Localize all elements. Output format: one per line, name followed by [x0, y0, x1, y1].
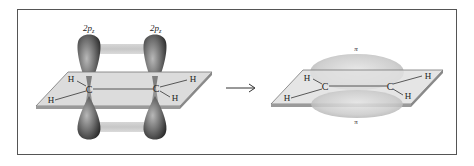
left-panel-p-orbitals: C C H H H H 2pz 2pz — [36, 23, 212, 140]
hydrogen-label: H — [172, 93, 179, 103]
hydrogen-label: H — [405, 91, 412, 101]
right-panel-pi-bond: C C H H H H π π — [271, 45, 443, 126]
pi-label-bottom: π — [354, 118, 358, 126]
hydrogen-label: H — [68, 74, 75, 84]
carbon-label: C — [86, 84, 93, 95]
carbon-label: C — [387, 81, 394, 92]
pi-cloud-lower — [311, 90, 403, 118]
carbon-label: C — [153, 83, 160, 94]
reaction-arrow — [226, 84, 255, 92]
hydrogen-label: H — [48, 95, 55, 105]
pi-label-top: π — [354, 45, 358, 53]
ethylene-pi-bond-diagram: C C H H H H 2pz 2pz C C H H — [0, 0, 474, 166]
hydrogen-label: H — [425, 71, 432, 81]
carbon-label: C — [322, 81, 329, 92]
hydrogen-label: H — [190, 74, 197, 84]
hydrogen-label: H — [284, 93, 291, 103]
orbital-label-2pz: 2pz — [83, 23, 95, 34]
hydrogen-label: H — [304, 73, 311, 83]
orbital-label-2pz: 2pz — [150, 23, 162, 34]
